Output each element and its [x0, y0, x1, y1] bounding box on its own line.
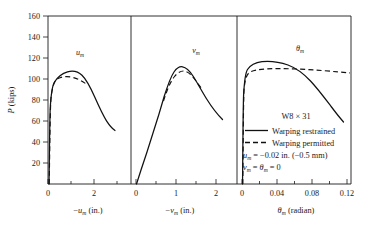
y-axis: 160 140 120 100 80 60 40 20 P (kips) [7, 12, 48, 184]
x-axis-title-theta: θm (radian) [278, 206, 315, 216]
chart-canvas: 160 140 120 100 80 60 40 20 P (kips) [0, 0, 384, 230]
curve-label-u: um [76, 48, 84, 58]
y-tick-label-120: 120 [28, 54, 40, 63]
x-tick-label-theta-0: 0 [240, 189, 244, 198]
legend-section-label: W8 × 31 [281, 112, 310, 121]
x-tick-label-v-2: 2 [214, 189, 218, 198]
x-axis-title-v: −vm (in.) [166, 206, 195, 216]
x-tick-label-v-0: 0 [134, 189, 138, 198]
y-tick-label-160: 160 [28, 12, 40, 21]
legend: W8 × 31 Warping restrained Warping permi… [243, 112, 336, 173]
y-tick-label-140: 140 [28, 33, 40, 42]
x-tick-label-theta-004: 0.04 [270, 189, 284, 198]
y-tick-label-40: 40 [32, 138, 40, 147]
legend-label-warping-restrained: Warping restrained [272, 127, 336, 136]
x-tick-label-u-0: 0 [46, 189, 50, 198]
x-tick-label-u-2: 2 [92, 189, 96, 198]
x-tick-label-v-1: 1 [174, 189, 178, 198]
y-tick-label-60: 60 [32, 117, 40, 126]
curve-v-warping-permitted [164, 71, 203, 101]
x-tick-label-theta-012: 0.12 [340, 189, 354, 198]
y-tick-label-100: 100 [28, 75, 40, 84]
y-axis-title: P (kips) [7, 86, 16, 114]
legend-label-warping-permitted: Warping permitted [272, 139, 335, 148]
curve-v-warping-restrained [137, 67, 223, 184]
x-tick-label-theta-008: 0.08 [305, 189, 319, 198]
x-axis-title-u: −um (in.) [73, 206, 102, 216]
panel-v: 0 1 2 −vm (in.) vm [134, 46, 223, 216]
curve-u-warping-permitted [49, 77, 86, 184]
legend-note-zero-imperfections: vm = θm = 0 [243, 163, 281, 173]
chart-figure: 160 140 120 100 80 60 40 20 P (kips) [0, 0, 384, 230]
y-tick-label-80: 80 [32, 96, 40, 105]
curve-label-v: vm [192, 46, 200, 56]
y-tick-label-20: 20 [32, 159, 40, 168]
curve-label-theta: θm [296, 44, 304, 54]
svg-text:P (kips): P (kips) [7, 86, 16, 114]
panel-u: 0 2 −um (in.) um [46, 48, 117, 216]
curve-u-warping-restrained [49, 71, 115, 184]
legend-note-initial-imperfection: um = −0.02 in. (−0.5 mm) [243, 151, 328, 161]
